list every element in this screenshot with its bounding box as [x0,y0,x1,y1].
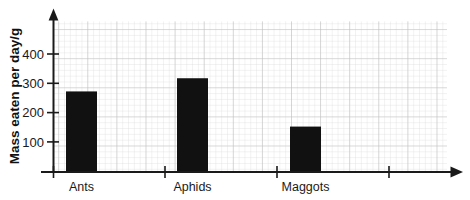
y-tick-label-300: 300 [22,76,44,91]
category-label-aphids: Aphids [173,180,211,194]
y-tick-label-100: 100 [22,135,44,150]
category-label-ants: Ants [69,180,94,194]
y-tick-label-200: 200 [22,105,44,120]
plot-grid [54,21,447,172]
bar-maggots [290,127,321,172]
y-axis-tick-labels: 400 300 200 100 [22,47,44,150]
chart-canvas: 400 300 200 100 Mass eaten per day/g Ant… [0,0,470,200]
bar-aphids [177,78,208,172]
y-tick-label-400: 400 [22,47,44,62]
category-labels: Ants Aphids Maggots [69,180,329,194]
bar-chart: 400 300 200 100 Mass eaten per day/g Ant… [0,0,470,200]
bar-ants [66,91,97,172]
y-axis-title: Mass eaten per day/g [7,28,22,165]
category-label-maggots: Maggots [282,180,330,194]
